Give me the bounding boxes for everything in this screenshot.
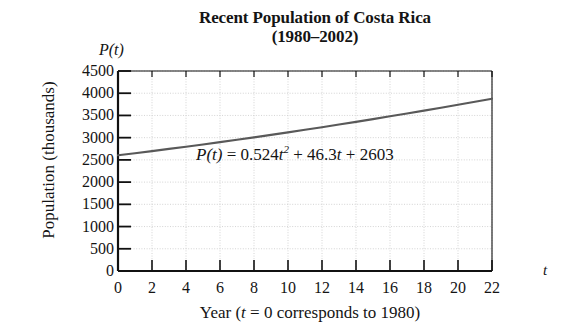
- y-tick-label-3000: 3000: [52, 130, 114, 146]
- x-tick-label-8: 8: [239, 280, 269, 296]
- equation-annotation: P(t) = 0.524t2 + 46.3t + 2603: [196, 143, 394, 165]
- population-chart-figure: Recent Population of Costa Rica (1980–20…: [0, 0, 583, 335]
- plot-frame: [118, 71, 492, 271]
- y-tick-label-2500: 2500: [52, 152, 114, 168]
- y-tick-label-4500: 4500: [52, 63, 114, 79]
- x-tick-label-22: 22: [477, 280, 507, 296]
- equation-lhs: P(t): [196, 145, 222, 164]
- equation-plus-1: +: [293, 145, 303, 164]
- x-tick-label-18: 18: [409, 280, 439, 296]
- y-tick-label-4000: 4000: [52, 85, 114, 101]
- equation-linear-coefficient: 46.3: [307, 145, 337, 164]
- y-tick-label-1500: 1500: [52, 196, 114, 212]
- tick-marks: [118, 71, 492, 271]
- y-tick-label-2000: 2000: [52, 174, 114, 190]
- x-axis-title-suffix: = 0 corresponds to 1980): [246, 303, 420, 322]
- y-tick-label-0: 0: [52, 263, 114, 279]
- x-axis-variable-label: t: [543, 262, 547, 279]
- x-tick-label-4: 4: [171, 280, 201, 296]
- equation-equals: =: [227, 145, 237, 164]
- x-tick-label-6: 6: [205, 280, 235, 296]
- y-tick-label-500: 500: [52, 241, 114, 257]
- chart-title: Recent Population of Costa Rica (1980–20…: [150, 8, 480, 46]
- plot-svg: [118, 71, 492, 271]
- x-tick-label-2: 2: [137, 280, 167, 296]
- x-tick-label-12: 12: [307, 280, 337, 296]
- y-tick-label-3500: 3500: [52, 107, 114, 123]
- chart-title-line-1: Recent Population of Costa Rica: [150, 8, 480, 27]
- x-tick-label-0: 0: [103, 280, 133, 296]
- equation-plus-2: +: [346, 145, 356, 164]
- x-axis-title-prefix: Year (: [200, 303, 241, 322]
- x-tick-label-16: 16: [375, 280, 405, 296]
- grid-lines: [118, 71, 492, 271]
- equation-quadratic-coefficient: 0.524: [241, 145, 279, 164]
- x-axis-title: Year (t = 0 corresponds to 1980): [100, 303, 520, 323]
- y-axis-variable-label: P(t): [99, 41, 124, 59]
- chart-title-line-2: (1980–2002): [150, 27, 480, 46]
- equation-constant: 2603: [360, 145, 394, 164]
- plot-area: [118, 71, 492, 271]
- x-tick-label-20: 20: [443, 280, 473, 296]
- x-tick-label-14: 14: [341, 280, 371, 296]
- x-tick-label-10: 10: [273, 280, 303, 296]
- y-tick-label-1000: 1000: [52, 219, 114, 235]
